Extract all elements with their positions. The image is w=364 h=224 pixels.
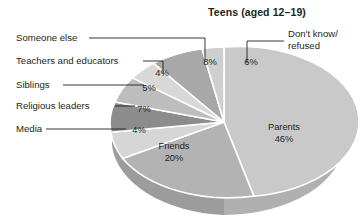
callout-siblings: Siblings bbox=[16, 79, 50, 91]
callout-media: Media bbox=[16, 123, 42, 135]
callout-religious-leaders: Religious leaders bbox=[16, 100, 90, 112]
value-siblings: 5% bbox=[138, 83, 160, 93]
value-teachers-and-educators: 4% bbox=[151, 68, 173, 78]
value-someone-else: 8% bbox=[198, 57, 222, 67]
inside-label-parents-name: Parents bbox=[244, 122, 324, 134]
value-dont-know-refused: 6% bbox=[240, 57, 262, 67]
value-media: 4% bbox=[128, 125, 150, 135]
callout-dont-know-refused: Don't know/ refused bbox=[288, 28, 338, 51]
inside-label-parents-value: 46% bbox=[244, 134, 324, 146]
pie-chart-figure: Teens (aged 12–19) bbox=[0, 0, 364, 224]
inside-label-friends-value: 20% bbox=[136, 153, 212, 165]
callout-teachers-and-educators: Teachers and educators bbox=[16, 55, 118, 67]
value-religious-leaders: 7% bbox=[133, 104, 155, 114]
callout-dont-know-line1: Don't know/ bbox=[288, 28, 338, 40]
callout-someone-else: Someone else bbox=[16, 32, 77, 44]
callout-dont-know-line2: refused bbox=[288, 40, 338, 52]
inside-label-friends: Friends 20% bbox=[136, 141, 212, 164]
inside-label-parents: Parents 46% bbox=[244, 122, 324, 145]
inside-label-friends-name: Friends bbox=[136, 141, 212, 153]
